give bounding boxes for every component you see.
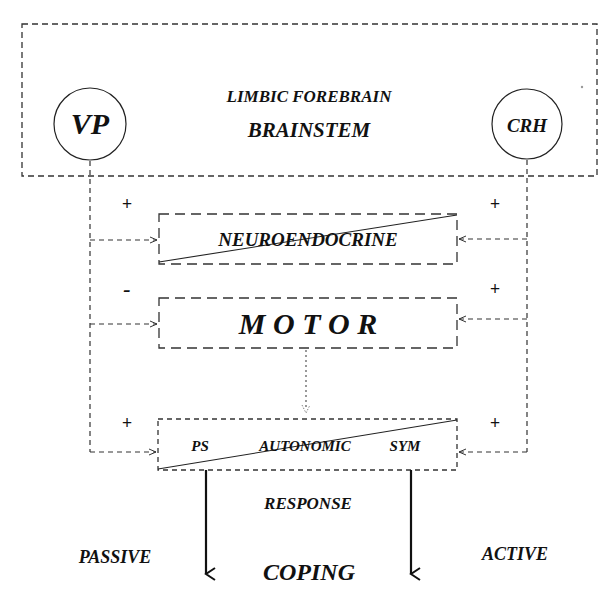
passive-label: PASSIVE [78,547,152,567]
autonomic-label: AUTONOMIC [258,438,351,454]
svg-text:VP: VP [71,107,110,140]
sign-crh-neuroendocrine: + [490,194,500,214]
svg-text:M O T O R: M O T O R [238,307,377,340]
brainstem-label: BRAINSTEM [247,118,372,142]
autonomic-box: PS AUTONOMIC SYM [158,419,457,470]
svg-text:CRH: CRH [507,115,548,136]
motor-box: M O T O R [159,298,457,348]
sign-vp-motor: - [123,276,130,301]
svg-text:NEUROENDOCRINE: NEUROENDOCRINE [217,229,397,250]
parasympathetic-label: PS [191,438,209,454]
coping-label: COPING [263,559,356,585]
sign-vp-autonomic: + [122,413,132,433]
stress-coping-diagram: LIMBIC FOREBRAIN BRAINSTEM VP CRH + - + … [0,0,612,606]
limbic-forebrain-label: LIMBIC FOREBRAIN [226,87,393,106]
sign-crh-autonomic: + [490,413,500,433]
vp-node: VP [54,88,126,160]
crh-node: CRH [492,89,562,159]
response-label: RESPONSE [263,494,352,513]
sign-vp-neuroendocrine: + [122,194,132,214]
neuroendocrine-box: NEUROENDOCRINE [159,214,457,264]
sign-crh-motor: + [490,279,500,299]
sympathetic-label: SYM [390,438,422,454]
scan-speck [581,86,583,88]
active-label: ACTIVE [481,544,548,564]
